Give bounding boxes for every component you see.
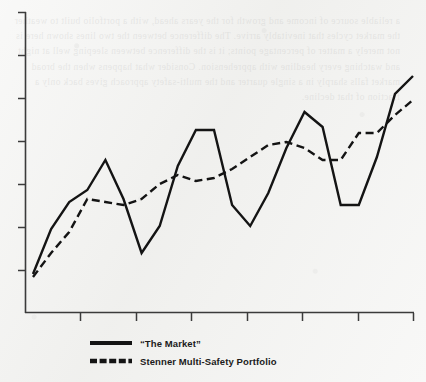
chart-axes [18,12,414,321]
x-axis-ticks [81,313,414,321]
legend-item-stenner-multi-safety-portfolio: Stenner Multi-Safety Portfolio [90,356,277,367]
series-line-stenner-multi-safety-portfolio [33,100,413,277]
legend-item-the-market: “The Market” [90,338,201,349]
series-group [33,76,413,277]
series-line-the-market [33,76,413,274]
scanned-chart-page: a reliable source of income and growth f… [0,0,426,382]
chart-legend: “The Market” Stenner Multi-Safety Portfo… [90,338,277,367]
line-chart: “The Market” Stenner Multi-Safety Portfo… [0,0,426,382]
legend-label-stenner-multi-safety-portfolio: Stenner Multi-Safety Portfolio [140,356,277,367]
legend-label-the-market: “The Market” [140,338,201,349]
